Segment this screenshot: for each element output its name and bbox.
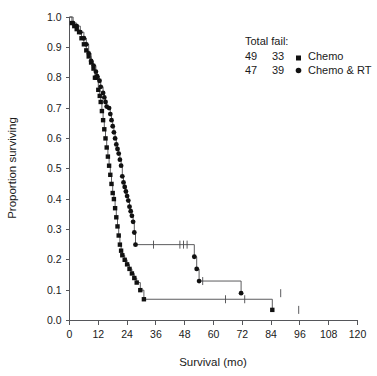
data-point-circle: [124, 189, 129, 194]
data-point-square: [100, 109, 104, 113]
legend-total-chemo: 49: [245, 50, 257, 62]
data-point-square: [109, 182, 113, 186]
data-point-square: [107, 164, 111, 168]
y-tick-label: 0.1: [47, 284, 62, 296]
data-point-circle: [131, 219, 136, 224]
x-tick-label: 12: [92, 328, 104, 340]
y-tick-label: 0.0: [47, 314, 62, 326]
legend-label-chemo-rt: Chemo & RT: [308, 64, 372, 76]
data-point-circle: [94, 69, 99, 74]
x-axis-title: Survival (mo): [179, 356, 247, 368]
legend-fail-chemo: 33: [272, 50, 284, 62]
data-point-square: [127, 267, 131, 271]
y-tick-label: 1.0: [47, 11, 62, 23]
data-point-square: [114, 215, 118, 219]
data-point-square: [132, 276, 136, 280]
data-point-square: [103, 136, 107, 140]
data-point-circle: [127, 204, 132, 209]
data-point-circle: [78, 30, 83, 35]
data-point-circle: [74, 24, 79, 29]
data-point-square: [112, 197, 116, 201]
data-point-square: [101, 118, 105, 122]
data-point-circle: [109, 118, 114, 123]
data-point-square: [105, 145, 109, 149]
data-point-square: [113, 206, 117, 210]
data-point-circle: [197, 279, 202, 284]
y-tick-label: 0.4: [47, 193, 62, 205]
data-point-square: [99, 100, 103, 104]
data-point-circle: [121, 180, 126, 185]
legend-total-chemo-rt: 47: [245, 64, 257, 76]
data-point-circle: [91, 63, 96, 68]
data-point-square: [125, 262, 129, 266]
data-point-square: [111, 191, 115, 195]
data-point-circle: [132, 230, 137, 235]
data-point-circle: [114, 142, 119, 147]
legend-square-marker-icon: [296, 56, 301, 61]
y-tick-label: 0.8: [47, 71, 62, 83]
kaplan-meier-chart: 0.00.10.20.30.40.50.60.70.80.91.0 012243…: [0, 0, 377, 376]
data-point-circle: [125, 194, 130, 199]
data-point-circle: [115, 147, 120, 152]
x-tick-label: 72: [236, 328, 248, 340]
data-point-square: [270, 308, 274, 312]
x-tick-label: 108: [320, 328, 338, 340]
y-axis-title: Proportion surviving: [6, 117, 18, 219]
data-point-square: [138, 288, 142, 292]
data-point-square: [135, 280, 139, 284]
data-point-circle: [192, 254, 197, 259]
survival-chart-figure: 0.00.10.20.30.40.50.60.70.80.91.0 012243…: [0, 0, 377, 376]
data-point-square: [123, 258, 127, 262]
data-point-circle: [107, 106, 112, 111]
data-point-circle: [128, 209, 133, 214]
x-tick-label: 24: [121, 328, 133, 340]
data-point-circle: [95, 74, 100, 79]
x-tick-label: 60: [208, 328, 220, 340]
x-tick-label: 84: [265, 328, 277, 340]
data-point-circle: [118, 157, 123, 162]
legend-circle-marker-icon: [296, 68, 302, 74]
data-point-circle: [113, 136, 118, 141]
data-point-circle: [116, 151, 121, 156]
data-point-circle: [133, 242, 138, 247]
data-point-circle: [84, 42, 89, 47]
legend-label-chemo: Chemo: [308, 50, 343, 62]
y-tick-label: 0.5: [47, 162, 62, 174]
x-tick-label: 48: [179, 328, 191, 340]
x-tick-label: 0: [67, 328, 73, 340]
data-point-square: [108, 173, 112, 177]
legend-fail-chemo-rt: 39: [272, 64, 284, 76]
data-point-square: [120, 253, 124, 257]
data-point-circle: [122, 185, 127, 190]
x-tick-label: 96: [294, 328, 306, 340]
data-point-circle: [119, 163, 124, 168]
y-tick-label: 0.7: [47, 102, 62, 114]
y-tick-label: 0.3: [47, 223, 62, 235]
data-point-square: [119, 248, 123, 252]
data-point-square: [106, 154, 110, 158]
y-tick-label: 0.6: [47, 132, 62, 144]
data-point-circle: [102, 95, 107, 100]
data-point-square: [115, 224, 119, 228]
data-point-square: [118, 242, 122, 246]
data-point-square: [142, 297, 146, 301]
data-point-circle: [126, 198, 131, 203]
y-tick-label: 0.2: [47, 253, 62, 265]
data-point-circle: [112, 130, 117, 135]
data-point-circle: [98, 84, 103, 89]
data-point-circle: [239, 291, 244, 296]
data-point-circle: [120, 174, 125, 179]
data-point-circle: [108, 112, 113, 117]
data-point-circle: [89, 59, 94, 64]
x-tick-label: 36: [150, 328, 162, 340]
legend-title: Total fail:: [245, 35, 288, 47]
data-point-circle: [103, 100, 108, 105]
data-point-square: [130, 271, 134, 275]
data-point-circle: [194, 267, 199, 272]
data-point-circle: [130, 213, 135, 218]
data-point-square: [102, 127, 106, 131]
data-point-square: [117, 233, 121, 237]
x-tick-label: 120: [349, 328, 367, 340]
data-point-circle: [97, 78, 102, 83]
data-point-circle: [101, 90, 106, 95]
